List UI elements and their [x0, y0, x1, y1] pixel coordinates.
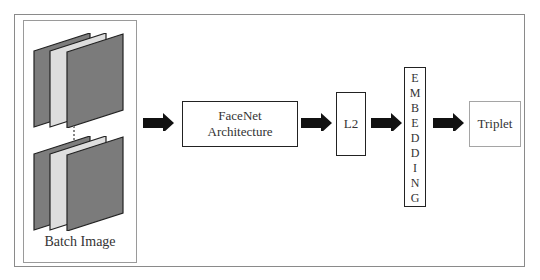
arrow-right-icon: [371, 113, 403, 131]
arrow-right-icon: [433, 113, 465, 131]
l2-normalization-node: L2: [336, 92, 366, 156]
triplet-label: Triplet: [478, 116, 513, 132]
facenet-label-line1: FaceNet: [208, 108, 273, 124]
embedding-letter: G: [411, 191, 420, 206]
embedding-letter: N: [411, 176, 420, 191]
embedding-letter: I: [413, 161, 417, 176]
embedding-letter: B: [411, 101, 419, 116]
embedding-node: E M B E D D I N G: [404, 67, 426, 207]
image-stack-bottom-icon: [30, 136, 130, 231]
embedding-letter: E: [411, 116, 418, 131]
arrow-right-icon: [301, 113, 333, 131]
embedding-letter: D: [411, 146, 420, 161]
l2-label: L2: [344, 116, 358, 132]
triplet-loss-node: Triplet: [469, 101, 521, 147]
facenet-label-line2: Architecture: [208, 124, 273, 140]
embedding-letter: E: [411, 71, 418, 86]
image-stack-top-icon: [30, 33, 130, 128]
batch-image-label: Batch Image: [23, 234, 137, 250]
embedding-letter: M: [410, 86, 421, 101]
embedding-letter: D: [411, 131, 420, 146]
arrow-right-icon: [143, 113, 175, 131]
facenet-architecture-node: FaceNet Architecture: [182, 101, 298, 147]
